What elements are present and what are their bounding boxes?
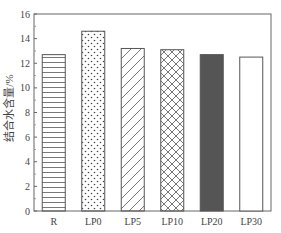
bar-lp30 — [240, 57, 263, 211]
y-tick-label: 10 — [20, 82, 30, 93]
bar-lp10 — [161, 50, 184, 211]
bar-lp20 — [200, 55, 223, 211]
x-tick-label: LP20 — [201, 216, 223, 227]
x-tick-label: R — [50, 216, 57, 227]
plot-frame — [34, 14, 271, 211]
bar-chart: 0246810121416RLP0LP5LP10LP20LP30 结合水含量/% — [0, 0, 281, 233]
y-tick-label: 4 — [25, 156, 30, 167]
bar-lp5 — [121, 48, 144, 211]
bar-r — [42, 55, 65, 211]
y-tick-label: 16 — [20, 9, 30, 20]
bar-lp0 — [82, 31, 105, 211]
y-tick-label: 6 — [25, 132, 30, 143]
y-tick-label: 8 — [25, 107, 30, 118]
y-tick-label: 2 — [25, 181, 30, 192]
chart-canvas: 0246810121416RLP0LP5LP10LP20LP30 — [0, 0, 281, 233]
y-axis-label: 结合水含量/% — [0, 68, 16, 148]
x-tick-label: LP5 — [124, 216, 141, 227]
x-tick-label: LP0 — [85, 216, 102, 227]
y-tick-label: 14 — [20, 33, 30, 44]
x-tick-label: LP30 — [240, 216, 262, 227]
y-tick-label: 0 — [25, 206, 30, 217]
x-tick-label: LP10 — [161, 216, 183, 227]
y-tick-label: 12 — [20, 58, 30, 69]
